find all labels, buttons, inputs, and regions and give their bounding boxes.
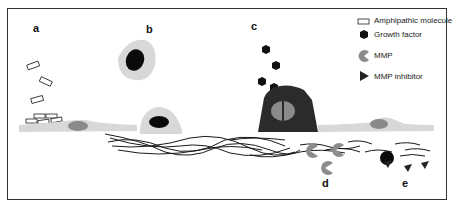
mmp-enzymes bbox=[306, 143, 344, 175]
legend-label-amphipathic: Amphipathic molecule bbox=[374, 16, 452, 25]
pacman-icon bbox=[359, 50, 369, 62]
activated-cell bbox=[258, 86, 318, 133]
legend-label-mmp: MMP bbox=[374, 51, 393, 60]
panel-label-c: c bbox=[251, 20, 257, 32]
amphipathic-molecules bbox=[26, 61, 62, 125]
flat-cell-right bbox=[318, 118, 434, 133]
legend-icons bbox=[358, 19, 369, 81]
mmp-inhibitors bbox=[380, 151, 429, 172]
attaching-cell bbox=[140, 107, 182, 134]
triangle-icon bbox=[360, 71, 369, 81]
legend-label-mmp-inhibitor: MMP inhibitor bbox=[374, 72, 423, 81]
panel-label-b: b bbox=[146, 23, 153, 35]
panel-label-d: d bbox=[322, 177, 329, 189]
rectangle-outline-icon bbox=[358, 19, 369, 24]
ecm-fibers bbox=[105, 134, 430, 157]
hexagon-icon bbox=[360, 30, 368, 39]
suspended-cell bbox=[118, 40, 156, 80]
legend-label-growth-factor: Growth factor bbox=[374, 30, 422, 39]
growth-factors bbox=[258, 45, 280, 92]
panel-label-e: e bbox=[402, 177, 408, 189]
panel-label-a: a bbox=[33, 22, 39, 34]
